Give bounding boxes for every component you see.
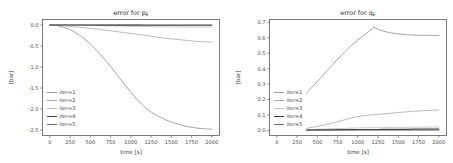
x-tick-label: 750 [333,139,343,145]
legend-label-iter-5: iter=5 [287,121,303,127]
legend-label-iter-5: iter=5 [60,121,76,127]
chart-panel-right: 0250500750100012501500175020000.00.10.20… [227,0,453,163]
legend-label-iter-2: iter=2 [287,97,303,103]
y-tick-label: 0.1 [257,112,265,118]
y-tick-label: 0.6 [257,35,265,41]
x-tick-label: 750 [106,139,116,145]
x-tick-label: 500 [312,139,322,145]
legend-label-iter-3: iter=3 [287,105,303,111]
line-chart-error-p: 0250500750100012501500175020000.0-0.5-1.… [0,0,226,163]
y-tick-label: -0.5 [29,43,39,49]
series-line-iter-1 [307,27,439,92]
y-tick-label: 0.0 [30,22,38,28]
legend-label-iter-3: iter=3 [60,105,76,111]
legend-label-iter-1: iter=1 [287,89,303,95]
series-line-iter-2 [50,25,212,42]
x-tick-label: 1000 [124,139,137,145]
plot-title: error for pE [113,9,148,17]
y-tick-label: 0.3 [257,81,265,87]
x-tick-label: 1500 [165,139,178,145]
legend-label-iter-1: iter=1 [60,89,76,95]
x-tick-label: 1500 [392,139,405,145]
y-tick-label: -2.5 [29,127,39,133]
legend-label-iter-4: iter=4 [60,113,76,119]
x-tick-label: 2000 [205,139,218,145]
line-chart-error-q: 0250500750100012501500175020000.00.10.20… [227,0,453,163]
series-line-iter-2 [307,110,439,128]
y-tick-label: -1.5 [29,85,39,91]
y-tick-label: 0.0 [257,127,265,133]
x-tick-label: 2000 [432,139,445,145]
legend-label-iter-4: iter=4 [287,113,303,119]
y-tick-label: -1.0 [29,64,39,70]
x-axis-label: time [s] [347,149,369,155]
y-axis-label: [bar] [8,71,14,85]
y-tick-label: -2.0 [29,106,39,112]
x-tick-label: 0 [275,139,278,145]
x-tick-label: 1250 [372,139,385,145]
x-tick-label: 1750 [185,139,198,145]
x-tick-label: 1750 [412,139,425,145]
x-tick-label: 0 [48,139,51,145]
y-axis-label: [bar] [235,71,241,85]
chart-panel-left: 0250500750100012501500175020000.0-0.5-1.… [0,0,226,163]
y-tick-label: 0.4 [257,66,265,72]
x-tick-label: 1250 [145,139,158,145]
y-tick-label: 0.5 [257,50,265,56]
x-tick-label: 250 [65,139,75,145]
x-tick-label: 1000 [351,139,364,145]
y-tick-label: 0.7 [257,19,265,25]
x-axis-label: time [s] [120,149,142,155]
x-tick-label: 250 [292,139,302,145]
y-tick-label: 0.2 [257,96,265,102]
figure-canvas: 0250500750100012501500175020000.0-0.5-1.… [0,0,453,163]
legend-label-iter-2: iter=2 [60,97,76,103]
x-tick-label: 500 [85,139,95,145]
plot-title: error for qE [340,9,375,17]
